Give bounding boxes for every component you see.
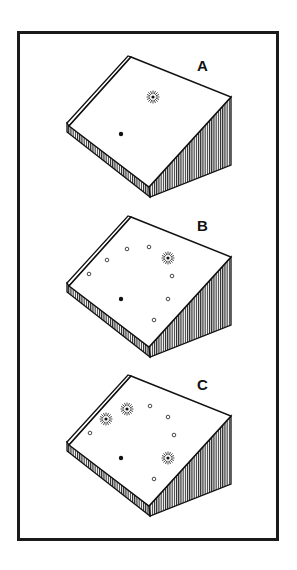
panel-label: B xyxy=(197,217,208,234)
star-icon xyxy=(162,452,175,465)
open-circle xyxy=(125,247,129,251)
open-circle xyxy=(166,297,170,301)
filled-dot xyxy=(119,132,123,136)
open-circle xyxy=(170,274,174,278)
star-icon xyxy=(100,413,113,426)
open-circle xyxy=(166,415,170,419)
filled-dot xyxy=(119,297,123,301)
open-circle xyxy=(87,272,91,276)
open-circle xyxy=(88,431,92,435)
panel-c: C xyxy=(67,375,231,516)
open-circle xyxy=(152,318,156,322)
panel-a: A xyxy=(67,56,231,197)
panel-label: C xyxy=(197,376,208,393)
filled-dot xyxy=(119,456,123,460)
open-circle xyxy=(147,245,151,249)
open-circle xyxy=(105,258,109,262)
panel-b: B xyxy=(67,216,231,357)
wedge-diagram: ABC xyxy=(0,0,297,570)
open-circle xyxy=(172,433,176,437)
panel-label: A xyxy=(197,57,208,74)
open-circle xyxy=(148,404,152,408)
star-icon xyxy=(121,403,134,416)
star-icon xyxy=(147,91,160,104)
open-circle xyxy=(152,477,156,481)
star-icon xyxy=(162,252,175,265)
